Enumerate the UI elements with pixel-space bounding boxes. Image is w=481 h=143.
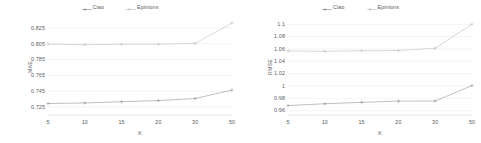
series-line-epinions: [288, 24, 472, 51]
y-tick-label: 1.06: [274, 46, 285, 52]
series-line-ciao: [48, 90, 232, 103]
y-tick-label: 0.745: [31, 88, 45, 94]
x-axis-title-mae: K: [125, 130, 155, 136]
y-tick-label: 1: [282, 83, 285, 89]
y-axis-title-mae: MAE: [27, 47, 33, 87]
y-tick-label: 0.805: [31, 41, 45, 47]
y-tick-label: 0.725: [31, 104, 45, 110]
series-line-ciao: [288, 86, 472, 106]
y-tick-label: 1.02: [274, 70, 285, 76]
y-tick-label: 0.765: [31, 72, 45, 78]
y-tick-label: 0.98: [274, 95, 285, 101]
x-axis-title-rmse: K: [365, 130, 395, 136]
x-tick-label: 5: [278, 119, 298, 125]
x-tick-label: 30: [185, 119, 205, 125]
series-line-epinions: [48, 23, 232, 45]
y-tick-label: 1.04: [274, 58, 285, 64]
y-axis-title-rmse: RMSE: [267, 47, 273, 87]
figure-two-line-charts: Ciao Epinions MAE K 0.8250.8050.7850.765…: [0, 0, 481, 143]
x-tick-label: 20: [148, 119, 168, 125]
chart-panel-rmse: Ciao Epinions RMSE K 1.11.081.061.041.02…: [240, 0, 481, 143]
x-tick-label: 10: [75, 119, 95, 125]
x-tick-label: 5: [38, 119, 58, 125]
chart-panel-mae: Ciao Epinions MAE K 0.8250.8050.7850.765…: [0, 0, 240, 143]
y-tick-label: 0.96: [274, 107, 285, 113]
y-tick-label: 0.785: [31, 56, 45, 62]
x-tick-label: 20: [388, 119, 408, 125]
x-tick-label: 50: [222, 119, 242, 125]
y-tick-label: 1.1: [277, 21, 285, 27]
x-tick-label: 15: [112, 119, 132, 125]
x-tick-label: 15: [352, 119, 372, 125]
x-tick-label: 50: [462, 119, 481, 125]
x-tick-label: 10: [315, 119, 335, 125]
y-tick-label: 0.825: [31, 25, 45, 31]
y-tick-label: 1.08: [274, 33, 285, 39]
x-tick-label: 30: [425, 119, 445, 125]
